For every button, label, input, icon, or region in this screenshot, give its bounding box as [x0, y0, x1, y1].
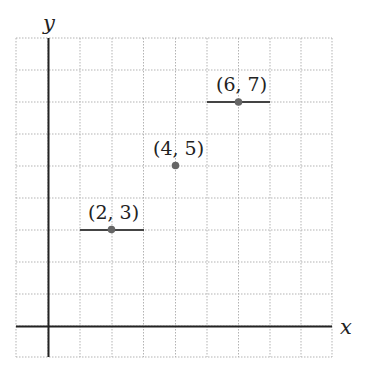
point-2-3 [108, 226, 116, 234]
label-point-6-7: (6, 7) [216, 73, 267, 95]
point-4-5 [172, 162, 180, 170]
x-axis-label: x [340, 315, 352, 339]
coordinate-plane: y x (2, 3) (4, 5) (6, 7) [0, 0, 371, 376]
grid [16, 38, 332, 357]
point-6-7 [235, 98, 243, 106]
label-point-2-3: (2, 3) [88, 201, 139, 223]
y-axis-label: y [42, 11, 56, 35]
label-point-4-5: (4, 5) [153, 137, 204, 159]
